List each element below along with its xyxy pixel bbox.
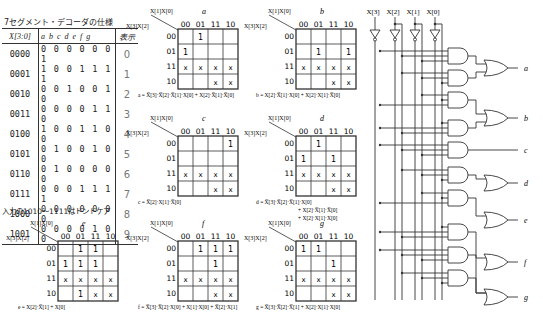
inverter-icon — [430, 30, 440, 38]
output-label-f: f — [524, 258, 528, 267]
or-gate-icon — [484, 289, 508, 305]
and-gate-icon — [448, 167, 468, 183]
and-gate-icon — [448, 224, 468, 240]
output-label-g: g — [524, 293, 528, 302]
or-gate-icon — [484, 254, 508, 270]
and-gate-icon — [448, 120, 468, 136]
inverter-icon — [410, 30, 420, 38]
and-gate-icon — [448, 142, 468, 158]
or-gate-icon — [484, 175, 508, 191]
input-label: X[3] — [366, 8, 379, 16]
inverter-icon — [370, 30, 380, 38]
or-gate-icon — [484, 110, 508, 126]
logic-circuit: X[3]X[2]X[1]X[0]abdefgc — [0, 0, 543, 320]
output-label-c: c — [524, 146, 528, 155]
output-label-d: d — [524, 179, 529, 188]
and-gate-icon — [448, 190, 468, 206]
output-label-b: b — [524, 114, 528, 123]
and-gate-icon — [448, 70, 468, 86]
and-gate-icon — [448, 48, 468, 64]
or-gate-icon — [484, 60, 508, 76]
output-label-e: e — [524, 216, 528, 225]
inverter-icon — [390, 30, 400, 38]
input-label: X[1] — [406, 8, 419, 16]
output-label-a: a — [524, 64, 528, 73]
or-gate-icon — [484, 212, 508, 228]
input-label: X[0] — [426, 8, 439, 16]
and-gate-icon — [448, 92, 468, 108]
input-label: X[2] — [386, 8, 399, 16]
and-gate-icon — [448, 247, 468, 263]
and-gate-icon — [448, 270, 468, 286]
